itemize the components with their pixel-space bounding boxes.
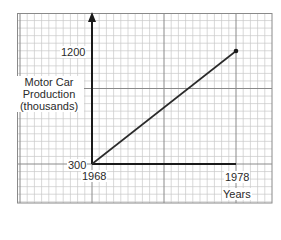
y-axis-title: Motor Car Production (thousands) — [14, 76, 84, 112]
x-axis-title: Years — [222, 188, 252, 200]
y-tick-1200: 1200 — [60, 46, 86, 58]
data-point-end — [234, 49, 239, 54]
y-axis-title-line-3: (thousands) — [14, 100, 84, 112]
x-tick-1978: 1978 — [224, 171, 250, 183]
y-axis-title-line-2: Production — [14, 88, 84, 100]
x-tick-1968: 1968 — [81, 170, 107, 182]
y-axis-title-line-1: Motor Car — [14, 76, 84, 88]
